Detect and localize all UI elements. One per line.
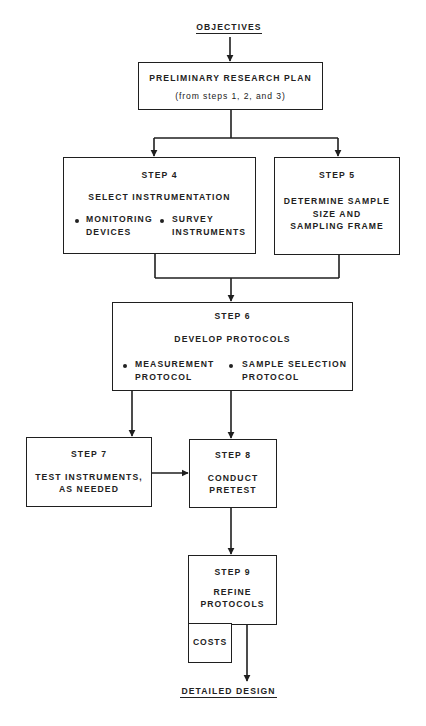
step8-line1: CONDUCT <box>190 473 276 483</box>
costs-box: COSTS <box>188 623 232 663</box>
preliminary-research-plan-box: PRELIMINARY RESEARCH PLAN (from steps 1,… <box>138 62 323 110</box>
flowchart-canvas: OBJECTIVES PRELIMINARY RESEARCH PLAN (fr… <box>0 0 426 726</box>
step4-bullet-1-line1: MONITORING <box>86 213 153 226</box>
step9-box: STEP 9 REFINE PROTOCOLS <box>188 555 277 625</box>
step7-line2: AS NEEDED <box>27 484 151 494</box>
step6-title: DEVELOP PROTOCOLS <box>113 334 352 344</box>
step9-number: STEP 9 <box>189 567 276 577</box>
step4-bullet-1: MONITORING DEVICES <box>86 213 153 238</box>
step9-line1: REFINE <box>189 587 276 597</box>
step4-bullet-1-line2: DEVICES <box>86 226 153 239</box>
step6-bullet-2-line2: PROTOCOL <box>242 371 347 384</box>
step6-bullet-1-line1: MEASUREMENT <box>135 358 214 371</box>
step5-number: STEP 5 <box>275 170 399 180</box>
step6-bullet-2: SAMPLE SELECTION PROTOCOL <box>242 358 347 383</box>
bullet-icon <box>229 364 233 368</box>
step6-bullet-2-line1: SAMPLE SELECTION <box>242 358 347 371</box>
step6-box: STEP 6 DEVELOP PROTOCOLS MEASUREMENT PRO… <box>112 302 353 391</box>
bullet-icon <box>123 364 127 368</box>
step5-box: STEP 5 DETERMINE SAMPLE SIZE AND SAMPLIN… <box>274 157 400 255</box>
step8-line2: PRETEST <box>190 485 276 495</box>
step7-line1: TEST INSTRUMENTS, <box>27 472 151 482</box>
step5-line1: DETERMINE SAMPLE <box>275 196 399 206</box>
detailed-design-label: DETAILED DESIGN <box>180 686 277 698</box>
bullet-icon <box>75 219 79 223</box>
step9-line2: PROTOCOLS <box>189 599 276 609</box>
step4-number: STEP 4 <box>64 170 255 180</box>
step6-bullet-1: MEASUREMENT PROTOCOL <box>135 358 214 383</box>
step4-title: SELECT INSTRUMENTATION <box>64 192 255 202</box>
step5-line2: SIZE AND <box>275 209 399 219</box>
step4-bullet-2-line1: SURVEY <box>172 213 246 226</box>
step5-line3: SAMPLING FRAME <box>275 221 399 231</box>
step6-bullet-1-line2: PROTOCOL <box>135 371 214 384</box>
prelim-subtitle: (from steps 1, 2, and 3) <box>139 91 322 101</box>
step4-box: STEP 4 SELECT INSTRUMENTATION MONITORING… <box>63 157 256 254</box>
step8-number: STEP 8 <box>190 450 276 460</box>
step8-box: STEP 8 CONDUCT PRETEST <box>189 439 277 508</box>
costs-label: COSTS <box>189 637 231 647</box>
step7-box: STEP 7 TEST INSTRUMENTS, AS NEEDED <box>26 437 152 507</box>
objectives-label: OBJECTIVES <box>196 22 262 34</box>
step4-bullet-2: SURVEY INSTRUMENTS <box>172 213 246 238</box>
step6-number: STEP 6 <box>113 311 352 321</box>
prelim-title: PRELIMINARY RESEARCH PLAN <box>139 73 322 83</box>
step4-bullet-2-line2: INSTRUMENTS <box>172 226 246 239</box>
step7-number: STEP 7 <box>27 449 151 459</box>
bullet-icon <box>160 219 164 223</box>
